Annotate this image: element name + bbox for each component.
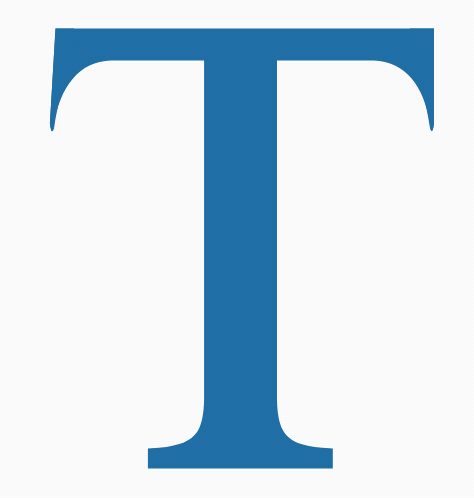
letter-canvas: Blue serif capital letter T T: [0, 0, 474, 498]
letter-t-graphic: Blue serif capital letter T: [0, 0, 474, 498]
